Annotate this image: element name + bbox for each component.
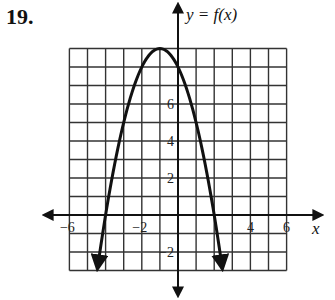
x-tick-label: 4: [247, 220, 254, 235]
parabola-graph: −6−246642−2 y = f(x) x: [0, 0, 335, 300]
function-label: y = f(x): [184, 5, 237, 24]
x-tick-label: 6: [283, 220, 290, 235]
y-tick-label: 2: [167, 171, 174, 186]
x-tick-label: −6: [60, 220, 75, 235]
x-axis-label: x: [311, 219, 320, 238]
y-tick-label: 4: [167, 134, 174, 149]
y-tick-label: 6: [167, 97, 174, 112]
y-tick-label: −2: [159, 245, 174, 260]
x-tick-label: −2: [132, 220, 147, 235]
